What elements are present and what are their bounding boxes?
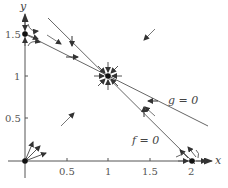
x-tick-label: 2 [188, 166, 194, 177]
trajectory-curve [196, 150, 199, 158]
arrow-icon [25, 146, 40, 161]
equilibrium-y-axis [22, 31, 28, 37]
equilibrium-interior [105, 73, 111, 79]
arrow-icon [188, 147, 196, 157]
arrow-icon [61, 113, 74, 126]
arrow-icon [180, 150, 188, 158]
y-tick-label: 1.5 [5, 29, 21, 40]
y-tick-label: 1 [14, 71, 20, 82]
arrow-icon [144, 29, 155, 40]
nullcline-f [48, 18, 195, 164]
arrow-icon [145, 107, 155, 116]
nullclines: g = 0 f = 0 [25, 18, 208, 164]
phase-plane-diagram: x y 0.5 1 1.5 2 0.5 1 1.5 g = 0 f = 0 [0, 0, 228, 188]
x-tick-label: 0.5 [59, 166, 75, 177]
y-axis-label: y [19, 0, 27, 13]
x-tick-label: 1.5 [142, 166, 158, 177]
equilibrium-x-axis [189, 158, 195, 164]
nullcline-f-label: f = 0 [131, 134, 159, 147]
nullcline-g-label: g = 0 [168, 94, 198, 107]
region-arrows [47, 29, 155, 126]
nullcline-g [25, 34, 208, 126]
x-tick-label: 1 [105, 166, 111, 177]
trajectory-curve [28, 42, 40, 47]
x-axis-label: x [215, 154, 222, 167]
arrow-icon [47, 35, 61, 44]
trajectory-curve [28, 24, 38, 31]
arrow-icon [98, 79, 105, 86]
y-tick-label: 0.5 [5, 113, 21, 124]
arrow-icon [111, 66, 118, 73]
axes: x y 0.5 1 1.5 2 0.5 1 1.5 [5, 0, 222, 178]
origin-arrows [25, 142, 46, 161]
equilibrium-origin [22, 158, 28, 164]
